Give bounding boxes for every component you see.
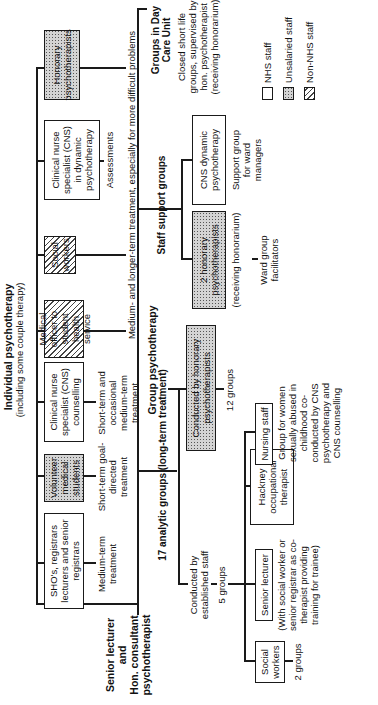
connector	[178, 389, 180, 585]
note-short-term-goal: Short-term goal-directed treatment	[96, 442, 129, 512]
day-care-title: Groups in Day Care Unit	[150, 0, 172, 85]
connector	[84, 331, 126, 333]
root-line-3: Hon. consultant	[128, 605, 140, 705]
staff-support-title: Staff support groups	[156, 145, 167, 265]
ward-group-facilitators: Ward group facilitators	[258, 225, 280, 295]
group-bus	[137, 10, 139, 605]
provider-box-cns-counselling: Clinical nurse specialist (CNS) counsell…	[44, 362, 84, 442]
connector	[178, 584, 188, 586]
connector	[228, 584, 244, 586]
box-2-honorary-psychotherapists: 2 honorary psychotherapists	[192, 211, 226, 309]
established-count: 5 groups	[216, 560, 227, 610]
connector	[80, 68, 126, 70]
note-medium-longer-term: Medium- and longer-term treatment, espec…	[126, 5, 137, 365]
root-line-4: psychotherapist	[140, 605, 152, 705]
connector	[137, 9, 147, 11]
legend-swatch-unsalaried	[283, 87, 294, 100]
support-group-ward-managers: Support group for ward managers	[230, 125, 263, 195]
honorary-count: 12 groups	[224, 365, 235, 415]
connector	[178, 389, 186, 391]
root-line-1: Senior lecturer	[104, 605, 116, 705]
box-cns-dynamic-psychotherapy: CNS dynamic psychotherapy	[192, 115, 226, 205]
legend-swatch-nhs	[262, 87, 273, 100]
connector	[84, 476, 96, 478]
box-conducted-by-honorary: Conducted by honorary psychotherapists	[186, 325, 216, 451]
connector	[84, 563, 96, 565]
provider-box-volunteer-medical-students: Volunteer medical students	[44, 454, 84, 502]
connector	[104, 604, 139, 606]
analytic-groups-title: 17 analytic groups (long-term treatment)	[157, 365, 168, 565]
connector	[244, 432, 246, 662]
day-care-note: Closed short life groups, supervised by …	[176, 0, 220, 95]
receiving-honorarium-note: (receiving honorarium)	[230, 211, 241, 309]
legend-swatch-non-nhs	[304, 87, 315, 100]
note-medium-term: Medium-term treatment	[96, 524, 118, 604]
provider-box-honorary-psychotherapists: Honorary psychotherapists	[44, 30, 80, 100]
connector	[137, 605, 139, 615]
note-short-term-occasional: Short-term and occasional medium-term tr…	[96, 363, 140, 443]
legend-label-nhs: NHS staff	[262, 43, 273, 83]
provider-box-medical-officer: Medical officer to student health servic…	[44, 300, 84, 358]
provider-box-sho-registrars: SHO's, registrars lecturers and senior r…	[44, 513, 84, 609]
connector	[84, 402, 96, 404]
senior-lecturer-note: (With social worker or senior registrar …	[276, 537, 320, 633]
connector	[168, 389, 178, 391]
provider-box-cns-dynamic: Clinical nurse specialist (CNS) in dynam…	[44, 120, 100, 200]
box-nursing-staff: Nursing staff	[255, 403, 273, 465]
box-senior-lecturer: Senior lecturer	[255, 549, 273, 621]
individual-title: Individual psychotherapy	[2, 257, 14, 437]
note-assessments: Assessments	[104, 120, 115, 200]
individual-subtitle: (including some couple therapy)	[14, 245, 25, 455]
legend-label-non-nhs: Non-NHS staff	[304, 22, 315, 83]
social-workers-count: 2 groups	[292, 637, 303, 687]
org-chart: Individual psychotherapy (including some…	[0, 0, 378, 705]
box-social-workers-group: Social workers	[255, 641, 285, 683]
connector	[181, 160, 183, 260]
connector	[76, 255, 126, 257]
established-staff-label: Conducted by established staff	[188, 543, 210, 627]
root-line-2: and	[116, 605, 128, 705]
legend-label-unsalaried: Unsalaried staff	[283, 17, 294, 83]
nursing-staff-note: Group for women sexually abused in child…	[276, 373, 342, 473]
provider-box-social-workers: Social workers	[44, 236, 76, 274]
connector	[216, 389, 224, 391]
